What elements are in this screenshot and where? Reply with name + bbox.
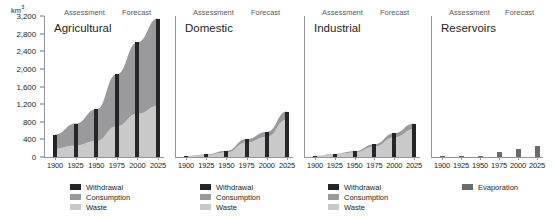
x-axis-tick-mark: [315, 157, 316, 160]
legend-item: Withdrawal: [70, 182, 130, 192]
y-axis-tick-label: 1,200: [16, 100, 36, 109]
x-axis-tick-mark: [117, 157, 118, 160]
area-band-group: [175, 16, 293, 157]
x-axis-tick-mark: [226, 157, 227, 160]
legend-item-label: Evaporation: [478, 183, 518, 192]
legend-item-label: Waste: [216, 203, 237, 212]
x-axis-tick-mark: [414, 157, 415, 160]
x-axis-tick-label: 1900: [307, 161, 323, 170]
x-axis-tick-mark: [76, 157, 77, 160]
x-axis-tick-label: 2000: [129, 161, 145, 170]
x-axis-tick-mark: [96, 157, 97, 160]
area-band-group: [304, 16, 420, 157]
bar: [245, 139, 249, 157]
panel-baseline: [44, 157, 164, 158]
x-axis-tick-mark: [355, 157, 356, 160]
legend-item-label: Waste: [86, 203, 107, 212]
waste-swatch-icon: [200, 204, 211, 210]
x-axis-tick-label: 2025: [529, 161, 545, 170]
bar: [115, 74, 119, 157]
consumption-swatch-icon: [200, 194, 211, 200]
x-axis-tick-label: 2000: [259, 161, 275, 170]
legend-item: Consumption: [328, 192, 388, 202]
x-axis-tick-label: 1900: [47, 161, 63, 170]
plot-area: [175, 16, 293, 157]
area-band-group: [44, 16, 164, 157]
x-axis-tick-mark: [461, 157, 462, 160]
plot-area: [431, 16, 543, 157]
x-axis-tick-label: 1950: [88, 161, 104, 170]
x-axis-tick-mark: [247, 157, 248, 160]
y-axis-tick-label: 3,200: [16, 12, 36, 21]
x-axis-tick-mark: [480, 157, 481, 160]
panel-baseline: [431, 157, 543, 158]
x-axis-tick-mark: [158, 157, 159, 160]
x-axis-tick-mark: [394, 157, 395, 160]
legend-item: Consumption: [70, 192, 130, 202]
withdrawal-swatch-icon: [70, 184, 81, 190]
waste-swatch-icon: [70, 204, 81, 210]
x-axis-tick-mark: [335, 157, 336, 160]
water-use-chart: km3 04008001,2001,6002,0002,4002,8003,20…: [0, 0, 554, 218]
consumption-swatch-icon: [70, 194, 81, 200]
evaporation-swatch-icon: [462, 184, 473, 190]
x-axis-tick-mark: [186, 157, 187, 160]
x-axis-tick-label: 1925: [198, 161, 214, 170]
x-axis-tick-label: 1900: [434, 161, 450, 170]
x-axis-tick-mark: [267, 157, 268, 160]
x-axis-tick-mark: [442, 157, 443, 160]
x-axis-tick-label: 2025: [406, 161, 422, 170]
x-axis-tick-mark: [137, 157, 138, 160]
y-axis-tick-label: 2,400: [16, 47, 36, 56]
bar: [412, 124, 416, 157]
bar: [535, 146, 540, 157]
x-axis-tick-mark: [55, 157, 56, 160]
x-axis-tick-label: 1950: [347, 161, 363, 170]
legend-item-label: Withdrawal: [86, 183, 123, 192]
x-axis-tick-label: 1975: [491, 161, 507, 170]
bar: [285, 112, 289, 157]
legend-item-label: Waste: [344, 203, 365, 212]
x-axis-tick-mark: [518, 157, 519, 160]
legend-item-label: Withdrawal: [216, 183, 253, 192]
y-axis-tick-label: 2,800: [16, 29, 36, 38]
legend-item: Withdrawal: [200, 182, 260, 192]
legend-item: Waste: [200, 202, 260, 212]
x-axis-tick-label: 1900: [178, 161, 194, 170]
legend-item-label: Consumption: [86, 193, 130, 202]
bar: [392, 133, 396, 157]
x-axis-tick-label: 1975: [109, 161, 125, 170]
y-axis-tick-label: 400: [23, 135, 36, 144]
legend-item: Withdrawal: [328, 182, 388, 192]
bar: [135, 42, 139, 157]
legend-item-label: Withdrawal: [344, 183, 381, 192]
x-axis-tick-mark: [287, 157, 288, 160]
legend-item: Waste: [328, 202, 388, 212]
x-axis-tick-label: 2025: [150, 161, 166, 170]
panel-baseline: [304, 157, 420, 158]
legend-item-label: Consumption: [216, 193, 260, 202]
bar: [94, 109, 98, 157]
consumption-swatch-icon: [328, 194, 339, 200]
plot-area: [304, 16, 420, 157]
legend-item-label: Consumption: [344, 193, 388, 202]
legend-agricultural: WithdrawalConsumptionWaste: [70, 182, 130, 212]
waste-area: [186, 120, 287, 158]
y-axis: km3 04008001,2001,6002,0002,4002,8003,20…: [0, 0, 44, 175]
x-axis-tick-mark: [499, 157, 500, 160]
x-axis-tick-label: 1925: [327, 161, 343, 170]
legend-item: Consumption: [200, 192, 260, 202]
withdrawal-swatch-icon: [328, 184, 339, 190]
x-axis-tick-label: 2025: [279, 161, 295, 170]
x-axis-tick-label: 1975: [239, 161, 255, 170]
legend-item: Evaporation: [462, 182, 518, 192]
x-axis-tick-mark: [537, 157, 538, 160]
panel-baseline: [175, 157, 293, 158]
legend-industrial: WithdrawalConsumptionWaste: [328, 182, 388, 212]
x-axis-tick-label: 1950: [472, 161, 488, 170]
bar: [265, 132, 269, 157]
bar: [156, 19, 160, 157]
x-axis-tick-label: 2000: [510, 161, 526, 170]
x-axis-tick-label: 1925: [453, 161, 469, 170]
waste-swatch-icon: [328, 204, 339, 210]
